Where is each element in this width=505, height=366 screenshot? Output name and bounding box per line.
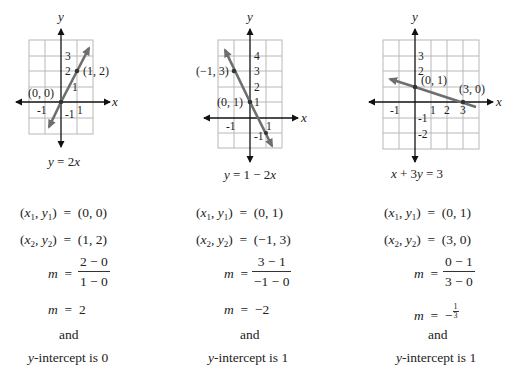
work-3-point-1-value: (0, 1) bbox=[442, 205, 471, 220]
svg-text:1: 1 bbox=[77, 104, 83, 116]
work-2-slope-fraction: 3 − 1 −1 − 0 bbox=[252, 255, 291, 288]
svg-text:-1: -1 bbox=[37, 104, 47, 116]
graph-2-point-0-1 bbox=[248, 100, 253, 105]
svg-text:-1: -1 bbox=[390, 104, 400, 116]
svg-text:1: 1 bbox=[430, 104, 436, 116]
graph-3: x y 3 2 -1 -2 -1 1 2 3 (0, 1) (3, 0) x +… bbox=[369, 9, 502, 181]
graph-3-line bbox=[390, 79, 415, 87]
work-1-slope-label: m = bbox=[48, 267, 72, 281]
work-2-slope-label: m = bbox=[224, 267, 248, 281]
work-1-and: and bbox=[59, 328, 79, 342]
graph-1-equation: y = 2x bbox=[46, 154, 80, 169]
work-2-slope-denominator: −1 − 0 bbox=[252, 272, 291, 289]
graph-2-point-label-0-1: (0, 1) bbox=[217, 95, 243, 109]
work-3-slope-value: m = −13 bbox=[414, 303, 459, 323]
work-1-slope-denominator: 1 − 0 bbox=[78, 272, 110, 289]
svg-text:2: 2 bbox=[254, 81, 260, 93]
graph-2-x-label: x bbox=[300, 110, 307, 125]
work-2-point-2: (x2, y2) = (−1, 3) bbox=[196, 233, 291, 247]
work-3-and: and bbox=[428, 328, 448, 342]
work-3-point-2-value: (3, 0) bbox=[442, 232, 471, 247]
work-1-point-2: (x2, y2) = (1, 2) bbox=[20, 233, 107, 247]
graph-2-y-label: y bbox=[245, 9, 253, 24]
work-1-point-1: (x1, y1) = (0, 0) bbox=[20, 206, 107, 220]
work-1-point-1-value: (0, 0) bbox=[78, 205, 107, 220]
svg-text:-2: -2 bbox=[418, 128, 428, 140]
work-2-and: and bbox=[240, 328, 260, 342]
graph-1-x-label: x bbox=[111, 94, 118, 109]
work-2-point-1-value: (0, 1) bbox=[254, 205, 283, 220]
work-3-point-2: (x2, y2) = (3, 0) bbox=[384, 233, 471, 247]
work-1-slope-fraction: 2 − 0 1 − 0 bbox=[78, 255, 110, 288]
svg-text:3: 3 bbox=[460, 104, 466, 116]
svg-text:3: 3 bbox=[65, 50, 71, 62]
work-3-point-1: (x1, y1) = (0, 1) bbox=[384, 206, 471, 220]
graph-2-point-neg1-3 bbox=[232, 69, 237, 74]
work-2-slope-value: m = −2 bbox=[224, 303, 269, 317]
work-3-slope-value-fraction: 13 bbox=[453, 303, 459, 320]
svg-text:-1: -1 bbox=[254, 130, 264, 142]
graph-3-point-label-0-1: (0, 1) bbox=[421, 73, 447, 87]
graphs-panel: x y 3 2 1 -1 -1 1 (0, 0) (1, 2) y = 2x bbox=[0, 0, 505, 190]
graph-1-y-label: y bbox=[56, 9, 64, 24]
work-3-slope-fraction: 0 − 1 3 − 0 bbox=[443, 255, 475, 288]
graph-2-equation: y = 1 − 2x bbox=[222, 167, 276, 182]
graph-3-x-label: x bbox=[495, 94, 502, 109]
graph-1-point-1-2 bbox=[75, 69, 80, 74]
svg-text:1: 1 bbox=[266, 120, 272, 132]
svg-text:3: 3 bbox=[254, 65, 260, 77]
svg-text:-1: -1 bbox=[226, 120, 236, 132]
graph-3-y-label: y bbox=[410, 9, 418, 24]
svg-text:-1: -1 bbox=[65, 108, 75, 120]
work-1-slope-value: m = 2 bbox=[48, 303, 86, 317]
graph-3-point-0-1 bbox=[413, 85, 418, 90]
work-3-slope-numerator: 0 − 1 bbox=[443, 255, 475, 272]
graph-3-point-label-3-0: (3, 0) bbox=[459, 82, 485, 96]
work-2-point-2-value: (−1, 3) bbox=[254, 232, 291, 247]
graph-1-point-origin bbox=[59, 100, 64, 105]
graph-1-point-label-origin: (0, 0) bbox=[28, 86, 54, 100]
svg-text:2: 2 bbox=[444, 104, 450, 116]
svg-text:1: 1 bbox=[72, 81, 78, 93]
work-2-intercept: y-intercept is 1 bbox=[208, 351, 288, 365]
work-1-intercept: y-intercept is 0 bbox=[28, 351, 108, 365]
graph-3-ticks: 3 2 -1 -2 -1 1 2 3 bbox=[390, 50, 466, 140]
svg-text:3: 3 bbox=[418, 50, 424, 62]
svg-text:-1: -1 bbox=[418, 112, 428, 124]
work-1-slope-numerator: 2 − 0 bbox=[78, 255, 110, 272]
graph-2: x y 4 3 2 1 -1 -1 1 (−1, 3) (0, 1) y = 1… bbox=[196, 9, 307, 182]
graph-2-point-label-neg1-3: (−1, 3) bbox=[196, 64, 229, 78]
graph-1-ticks: 3 2 1 -1 -1 1 bbox=[37, 50, 83, 120]
work-3-slope-label: m = bbox=[414, 267, 438, 281]
graph-3-equation: x + 3y = 3 bbox=[390, 166, 443, 181]
svg-text:1: 1 bbox=[254, 96, 260, 108]
graph-1: x y 3 2 1 -1 -1 1 (0, 0) (1, 2) y = 2x bbox=[16, 9, 118, 169]
svg-text:2: 2 bbox=[65, 65, 71, 77]
graph-1-point-label-1-2: (1, 2) bbox=[83, 64, 109, 78]
work-2-point-1: (x1, y1) = (0, 1) bbox=[196, 206, 283, 220]
work-2-slope-numerator: 3 − 1 bbox=[252, 255, 291, 272]
svg-text:4: 4 bbox=[254, 50, 260, 62]
work-3-slope-denominator: 3 − 0 bbox=[443, 272, 475, 289]
work-1-point-2-value: (1, 2) bbox=[78, 232, 107, 247]
work-3-intercept: y-intercept is 1 bbox=[396, 351, 476, 365]
